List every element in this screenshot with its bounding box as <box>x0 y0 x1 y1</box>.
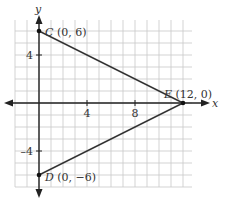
y-axis-up-arrow-icon <box>36 15 43 24</box>
point-d-label: D (0, −6) <box>44 171 96 184</box>
y-axis-down-arrow-icon <box>36 189 43 198</box>
y-axis-label: y <box>34 3 42 16</box>
point-e <box>181 101 186 106</box>
x-axis-left-arrow-icon <box>4 100 13 107</box>
x-tick-label-4: 4 <box>84 107 91 120</box>
point-c-label: C (0, 6) <box>45 26 87 39</box>
x-axis-label: x <box>212 97 219 110</box>
coordinate-plane-figure: 4 8 4 –4 x y C (0, 6) D (0, −6) E (12, 0… <box>0 0 225 203</box>
point-c <box>37 29 42 34</box>
y-tick-label-neg4: –4 <box>21 145 34 158</box>
point-e-label: E (12, 0) <box>163 88 212 101</box>
x-tick-label-8: 8 <box>132 107 139 120</box>
y-axis <box>36 15 43 198</box>
point-d <box>37 173 42 178</box>
y-tick-label-4: 4 <box>26 49 33 62</box>
